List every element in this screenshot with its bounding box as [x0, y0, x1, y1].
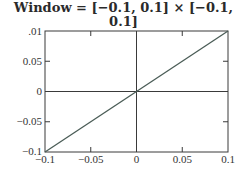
chart-plot: .01 0.05 0 −0.05 −0.1 −0.1 −0.05 0 0.05 … — [0, 0, 247, 179]
x-tick-label: −0.1 — [35, 153, 55, 165]
x-tick-label: 0.1 — [221, 153, 235, 165]
y-tick-label: −0.05 — [17, 115, 43, 127]
y-tick-label: 0.05 — [23, 55, 43, 67]
x-tick-label: 0.05 — [173, 153, 193, 165]
x-tick-label: −0.05 — [78, 153, 104, 165]
y-tick-label: .01 — [28, 25, 42, 37]
y-tick-label: 0 — [37, 85, 43, 97]
x-tick-label: 0 — [134, 153, 140, 165]
